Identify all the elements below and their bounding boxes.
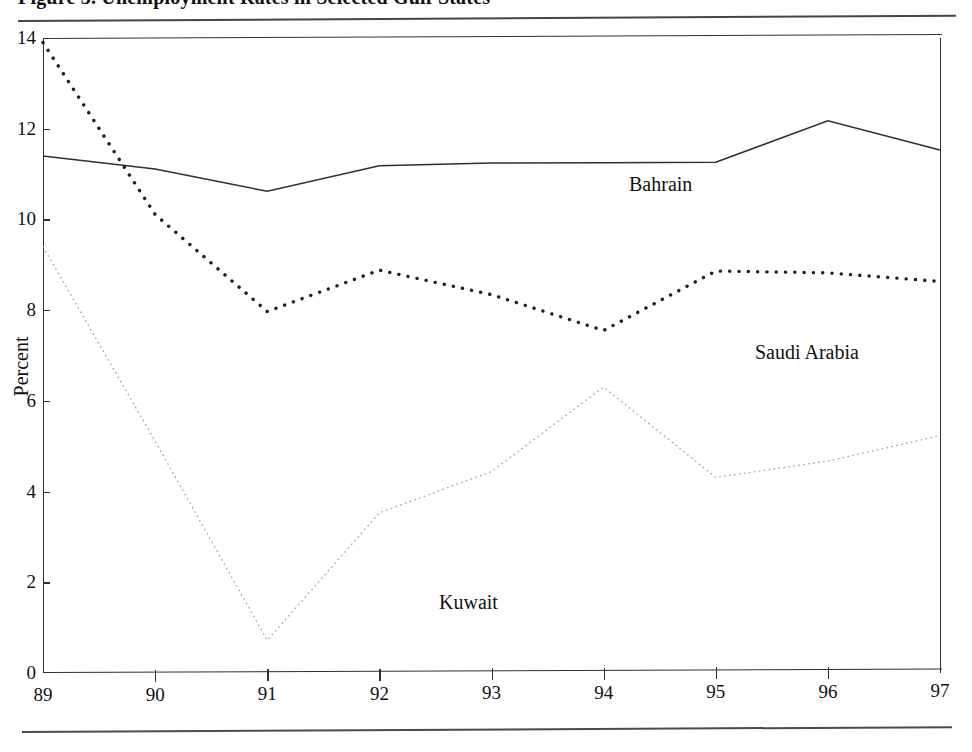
y-tick-mark-10 (43, 219, 50, 220)
series-path-kuwait (43, 247, 940, 641)
x-tick-mark-92 (379, 669, 380, 681)
x-tick-mark-91 (267, 669, 268, 681)
series-label-kuwait: Kuwait (439, 591, 498, 614)
x-tick-mark-93 (492, 668, 493, 680)
series-label-bahrain: Bahrain (629, 173, 692, 196)
x-axis-tick-labels: 899091929394959697 (43, 682, 942, 716)
series-label-saudi-arabia: Saudi Arabia (755, 341, 859, 364)
y-axis-tick-4: 4 (27, 481, 37, 503)
y-axis-tick-0: 0 (27, 662, 37, 684)
y-axis-tick-12: 12 (17, 118, 36, 140)
y-axis-tick-labels: 02468101214 (0, 38, 36, 673)
y-axis-tick-8: 8 (27, 299, 37, 321)
y-tick-mark-2 (43, 582, 50, 583)
y-axis-tick-6: 6 (27, 390, 37, 412)
y-axis-tick-10: 10 (17, 208, 36, 230)
figure-caption-text: Figure 3. Unemployment Rates in Selected… (18, 0, 490, 9)
y-axis-tick-2: 2 (27, 571, 37, 593)
y-tick-mark-4 (43, 492, 50, 493)
x-axis-tick-89: 89 (34, 684, 53, 706)
x-axis-tick-96: 96 (818, 681, 837, 703)
x-axis-tick-90: 90 (146, 684, 165, 706)
bottom-horizontal-rule (22, 726, 952, 733)
x-axis-tick-93: 93 (482, 682, 501, 704)
y-axis-tick-14: 14 (17, 27, 36, 49)
y-tick-mark-12 (43, 129, 50, 130)
plot-area: Bahrain Saudi Arabia Kuwait (43, 38, 942, 673)
x-tick-mark-96 (828, 667, 829, 679)
x-axis-tick-92: 92 (370, 683, 389, 705)
x-tick-mark-90 (155, 670, 156, 682)
series-path-bahrain (43, 121, 940, 191)
y-tick-mark-8 (43, 310, 50, 311)
x-axis-tick-97: 97 (931, 680, 950, 702)
x-tick-mark-94 (604, 668, 605, 680)
y-tick-mark-6 (43, 401, 50, 402)
x-tick-mark-95 (716, 667, 717, 679)
x-axis-tick-95: 95 (706, 681, 725, 703)
x-axis-tick-91: 91 (258, 683, 277, 705)
figure-canvas: Figure 3. Unemployment Rates in Selected… (0, 0, 972, 752)
x-axis-tick-94: 94 (594, 682, 613, 704)
series-path-saudi-arabia (43, 43, 940, 331)
